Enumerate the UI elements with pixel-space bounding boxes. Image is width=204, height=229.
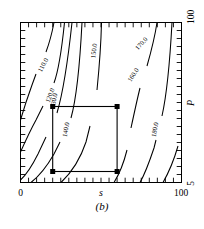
contour-path-110b: [46, 23, 54, 53]
y-axis-title: P: [185, 100, 196, 107]
contour-path-120b: [54, 23, 65, 84]
y-axis-labels: 100 5: [186, 10, 196, 186]
contour-path-120: [21, 106, 44, 152]
contour-path-170: [140, 140, 156, 183]
contour-label-180: 180.0: [150, 121, 160, 138]
contour-path-160b: [131, 88, 140, 128]
contour-label-110: 110.0: [36, 56, 49, 73]
y-axis-max-label: 100: [186, 10, 196, 25]
contour-path-140c: [71, 23, 82, 119]
contour-label-150: 150.0: [89, 42, 98, 58]
corner-marker-bottom-left: [50, 169, 55, 174]
contour-path-130b: [57, 23, 72, 114]
x-axis-min-label: 0: [18, 188, 23, 198]
contour-curves: [21, 23, 182, 183]
axis-ticks-right: [177, 31, 182, 175]
y-axis-min-label: 5: [186, 181, 196, 186]
x-axis-max-label: 100: [174, 188, 189, 198]
contour-path-160: [114, 150, 127, 183]
contour-path-150c: [97, 23, 102, 91]
corner-marker-top-left: [50, 104, 55, 109]
rectangle-corner-markers[interactable]: [50, 104, 119, 174]
overlay-rectangle[interactable]: [53, 107, 117, 172]
contour-path-140: [31, 142, 60, 183]
contour-path-180: [163, 146, 178, 183]
figure-caption: (b): [0, 200, 204, 212]
contour-path-170b: [162, 23, 172, 117]
corner-marker-bottom-right: [115, 169, 120, 174]
contour-label-170: 170.0: [134, 35, 150, 51]
axis-ticks-bottom: [29, 178, 174, 183]
contour-label-160: 160.0: [126, 66, 140, 83]
corner-marker-top-right: [115, 104, 120, 109]
contour-label-140: 140.0: [61, 121, 71, 138]
contour-plot-figure: 110.0 120.0 130.0 140.0 150.0 160.0 170.…: [0, 0, 204, 229]
contour-path-160c: [147, 23, 157, 67]
contour-path-110: [21, 74, 37, 120]
x-axis-title: s: [99, 187, 103, 198]
axis-ticks-left: [21, 31, 26, 175]
x-axis-labels: 0 100: [18, 188, 188, 198]
plot-svg: 110.0 120.0 130.0 140.0 150.0 160.0 170.…: [0, 0, 204, 229]
